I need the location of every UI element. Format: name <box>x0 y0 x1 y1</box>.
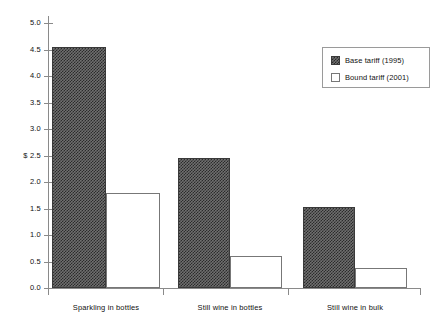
y-tick-label-wrap-9: 4.5 <box>0 46 41 54</box>
y-tick-label-wrap-7: 3.5 <box>0 99 41 107</box>
legend-item-base-tariff: Base tariff (1995) <box>331 55 404 65</box>
y-tick-label-wrap-2: 1.0 <box>0 231 41 239</box>
x-tick-start <box>48 288 49 295</box>
y-tick-label-9: 4.5 <box>1 46 41 54</box>
y-tick-label-0: 0.0 <box>1 284 41 292</box>
y-tick-label-8: 4.0 <box>1 72 41 80</box>
legend-swatch-hatched-icon <box>331 56 340 65</box>
y-tick-label-wrap-4: 2.0 <box>0 178 41 186</box>
legend-swatch-open-icon <box>331 73 340 82</box>
bar-chart: 0.00.51.01.52.0$ 2.53.03.54.04.55.0 Spar… <box>0 0 433 325</box>
y-tick-label-6: 3.0 <box>1 125 41 133</box>
bar-0-1 <box>106 193 160 288</box>
bar-1-0 <box>178 158 230 288</box>
y-tick-label-3: 1.5 <box>1 205 41 213</box>
y-tick-label-7: 3.5 <box>1 99 41 107</box>
x-tick-end <box>420 288 421 295</box>
legend: Base tariff (1995) Bound tariff (2001) <box>322 47 430 88</box>
y-tick-label-wrap-0: 0.0 <box>0 284 41 292</box>
x-tick-1 <box>163 288 164 295</box>
y-tick-label-wrap-1: 0.5 <box>0 258 41 266</box>
y-tick-label-10: 5.0 <box>1 19 41 27</box>
y-tick-label-wrap-10: 5.0 <box>0 19 41 27</box>
y-tick-label-1: 0.5 <box>1 258 41 266</box>
y-tick-label-wrap-3: 1.5 <box>0 205 41 213</box>
x-axis-line <box>48 288 421 289</box>
category-label-0: Sparkling in bottles <box>46 303 166 312</box>
category-label-1: Still wine in bottles <box>170 303 290 312</box>
legend-item-bound-tariff: Bound tariff (2001) <box>331 72 409 82</box>
category-label-2: Still wine in bulk <box>295 303 415 312</box>
legend-label-bound-tariff: Bound tariff (2001) <box>345 73 409 82</box>
y-tick-label-wrap-8: 4.0 <box>0 72 41 80</box>
bar-2-1 <box>355 268 407 288</box>
y-tick-label-2: 1.0 <box>1 231 41 239</box>
y-tick-label-wrap-6: 3.0 <box>0 125 41 133</box>
bar-2-0 <box>303 207 355 288</box>
bar-0-0 <box>52 47 106 288</box>
y-tick-label-wrap-5: $ 2.5 <box>0 152 41 160</box>
x-tick-2 <box>288 288 289 295</box>
legend-label-base-tariff: Base tariff (1995) <box>345 56 404 65</box>
bar-1-1 <box>230 256 282 288</box>
y-tick-label-5: $ 2.5 <box>1 152 41 160</box>
y-tick-label-4: 2.0 <box>1 178 41 186</box>
